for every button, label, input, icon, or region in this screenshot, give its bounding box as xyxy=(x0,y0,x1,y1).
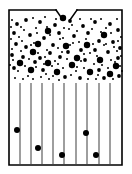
medium-particles-upper-32 xyxy=(12,66,16,70)
fine-particles-upper-44 xyxy=(37,52,39,54)
notch-right-edge xyxy=(70,10,77,20)
fine-particles-upper-77 xyxy=(32,78,34,80)
large-particles-upper-4 xyxy=(84,42,90,48)
medium-particles-upper-26 xyxy=(10,53,14,57)
medium-particles-upper-14 xyxy=(72,34,76,38)
medium-particles-upper-19 xyxy=(24,45,28,49)
fine-particles-upper-33 xyxy=(57,47,59,49)
medium-particles-upper-17 xyxy=(111,40,115,44)
medium-particles-upper-6 xyxy=(81,24,85,28)
fine-particles-upper-76 xyxy=(22,78,24,80)
particle-field xyxy=(9,15,123,158)
fine-particles-upper-4 xyxy=(35,27,37,29)
fine-particles-upper-86 xyxy=(62,67,64,69)
fine-particles-upper-53 xyxy=(105,43,107,45)
medium-particles-upper-23 xyxy=(93,48,97,52)
fine-particles-upper-78 xyxy=(48,78,50,80)
medium-particles-upper-27 xyxy=(21,55,25,59)
fine-particles-upper-16 xyxy=(10,26,12,28)
fine-particles-upper-58 xyxy=(24,65,26,67)
fine-particles-upper-13 xyxy=(105,27,107,29)
fine-particles-upper-47 xyxy=(61,51,63,53)
fine-particles-upper-68 xyxy=(83,67,85,69)
fine-particles-upper-69 xyxy=(87,78,89,80)
medium-particles-upper-10 xyxy=(12,31,16,35)
fine-particles-upper-45 xyxy=(44,56,46,58)
medium-particles-upper-5 xyxy=(68,19,72,23)
fine-particles-upper-2 xyxy=(20,26,22,28)
fine-particles-upper-19 xyxy=(36,32,38,34)
medium-particles-upper-36 xyxy=(97,68,101,72)
medium-particles-upper-33 xyxy=(41,68,45,72)
fine-particles-upper-22 xyxy=(68,28,70,30)
fine-particles-upper-52 xyxy=(96,55,98,57)
fine-particles-upper-63 xyxy=(51,65,53,67)
large-particles-upper-16 xyxy=(35,41,41,47)
large-particles-upper-7 xyxy=(17,60,23,66)
bed-particles-lower-5 xyxy=(93,152,99,158)
medium-particles-upper-4 xyxy=(53,23,57,27)
fine-particles-upper-57 xyxy=(17,70,19,72)
fine-particles-upper-80 xyxy=(95,78,97,80)
fine-particles-upper-72 xyxy=(107,67,109,69)
medium-particles-upper-29 xyxy=(58,55,62,59)
medium-particles-upper-18 xyxy=(14,42,18,46)
fine-particles-upper-23 xyxy=(72,42,74,44)
large-particles-upper-10 xyxy=(97,57,103,63)
medium-particles-upper-38 xyxy=(117,74,121,78)
fine-particles-upper-35 xyxy=(71,24,73,26)
fine-particles-upper-59 xyxy=(27,75,29,77)
large-particles-upper-15 xyxy=(107,71,113,77)
medium-particles-upper-37 xyxy=(102,76,106,80)
medium-particles-upper-1 xyxy=(15,22,19,26)
medium-particles-upper-31 xyxy=(116,56,120,60)
fine-particles-upper-8 xyxy=(63,27,65,29)
medium-particles-upper-25 xyxy=(118,46,122,50)
fine-particles-upper-25 xyxy=(90,18,92,20)
fine-particles-upper-70 xyxy=(93,63,95,65)
fine-particles-upper-83 xyxy=(28,58,30,60)
fine-particles-upper-32 xyxy=(46,49,48,51)
large-particles-upper-12 xyxy=(28,67,34,73)
fine-particles-upper-1 xyxy=(11,19,13,21)
medium-particles-upper-21 xyxy=(66,50,70,54)
fine-particles-upper-5 xyxy=(44,16,46,18)
fine-particles-upper-24 xyxy=(85,38,87,40)
medium-particles-upper-2 xyxy=(24,18,28,22)
fine-particles-upper-49 xyxy=(76,66,78,68)
fine-particles-upper-28 xyxy=(117,40,119,42)
fine-particles-upper-50 xyxy=(83,53,85,55)
fine-particles-upper-37 xyxy=(92,43,94,45)
fine-particles-upper-10 xyxy=(79,18,81,20)
fine-particles-upper-54 xyxy=(110,59,112,61)
medium-particles-upper-13 xyxy=(57,31,61,35)
fine-particles-upper-89 xyxy=(114,61,116,63)
medium-particles-upper-28 xyxy=(38,56,42,60)
fine-particles-upper-67 xyxy=(75,70,77,72)
fine-particles-upper-12 xyxy=(100,18,102,20)
fine-particles-upper-71 xyxy=(101,64,103,66)
fine-particles-upper-61 xyxy=(40,76,42,78)
fine-particles-upper-3 xyxy=(32,17,34,19)
fine-particles-upper-36 xyxy=(78,41,80,43)
medium-particles-upper-30 xyxy=(83,58,87,62)
fine-particles-upper-21 xyxy=(55,18,57,20)
fine-particles-upper-75 xyxy=(14,77,16,79)
medium-particles-upper-24 xyxy=(106,50,110,54)
large-particles-upper-1 xyxy=(60,15,66,21)
fine-particles-upper-31 xyxy=(33,42,35,44)
fine-particles-upper-46 xyxy=(54,60,56,62)
fine-particles-upper-73 xyxy=(112,78,114,80)
large-particles-upper-9 xyxy=(74,55,80,61)
fine-particles-upper-82 xyxy=(9,64,11,66)
fine-particles-upper-40 xyxy=(120,55,122,57)
large-particles-upper-13 xyxy=(54,69,60,75)
fine-particles-upper-27 xyxy=(110,32,112,34)
large-particles-upper-3 xyxy=(101,32,107,38)
fine-particles-upper-14 xyxy=(116,18,118,20)
fine-particles-upper-48 xyxy=(69,44,71,46)
fine-particles-upper-62 xyxy=(45,73,47,75)
fine-particles-upper-17 xyxy=(18,36,20,38)
medium-particles-upper-7 xyxy=(93,20,97,24)
medium-particles-upper-40 xyxy=(48,51,52,55)
